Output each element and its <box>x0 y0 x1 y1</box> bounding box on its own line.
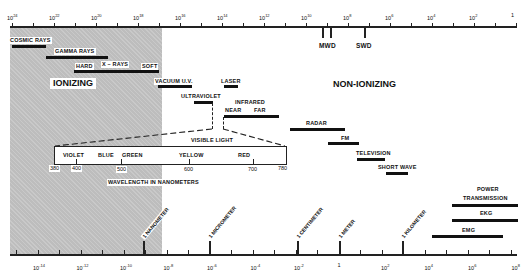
wavelength-tick <box>124 250 125 254</box>
wl-700: 700 <box>248 166 257 173</box>
wavelength-tick <box>167 250 168 254</box>
visible-light-dashed-lines <box>0 0 529 280</box>
green-label: GREEN <box>121 152 144 159</box>
wavelength-tick-label: 108 <box>512 262 520 272</box>
kilometer-marker <box>402 241 404 254</box>
wavelength-tick <box>253 250 254 254</box>
wavelength-tick <box>102 250 103 254</box>
red-label: RED <box>237 152 251 159</box>
wavelength-unit-label: WAVELENGTH IN NANOMETERS <box>107 179 200 186</box>
wavelength-tick <box>317 250 318 254</box>
blue-label: BLUE <box>97 152 115 159</box>
wavelength-tick <box>274 250 275 254</box>
wavelength-tick <box>16 250 17 254</box>
wavelength-tick <box>360 250 361 254</box>
wavelength-tick-label: 1 <box>338 262 341 269</box>
wavelength-tick-label: 10-10 <box>120 262 132 272</box>
wavelength-tick <box>38 250 39 254</box>
wl-tick-500 <box>121 159 122 164</box>
wavelength-tick <box>145 250 146 254</box>
wavelength-tick <box>382 250 383 254</box>
wavelength-tick-label: 10-8 <box>164 262 174 272</box>
wavelength-tick-label: 106 <box>468 262 476 272</box>
wavelength-tick-label: 10-4 <box>251 262 261 272</box>
wavelength-tick <box>231 250 232 254</box>
violet-label: VIOLET <box>62 152 85 159</box>
visible-light-label: VISIBLE LIGHT <box>190 137 234 144</box>
wl-tick-400 <box>76 159 77 164</box>
wavelength-tick <box>59 250 60 254</box>
wl-600: 600 <box>184 166 193 173</box>
wavelength-tick <box>511 250 512 254</box>
wavelength-tick-label: 104 <box>425 262 433 272</box>
meter-marker <box>339 241 341 254</box>
micrometer-marker <box>209 241 211 254</box>
wl-400: 400 <box>71 165 82 172</box>
wavelength-tick <box>425 250 426 254</box>
nanometer-marker <box>143 241 145 254</box>
centimeter-marker <box>297 241 299 254</box>
wl-tick-700 <box>253 159 254 164</box>
wavelength-tick <box>489 250 490 254</box>
wavelength-tick <box>188 250 189 254</box>
wl-780: 780 <box>278 165 287 172</box>
wavelength-tick-label: 10-14 <box>33 262 45 272</box>
wl-380: 380 <box>49 165 60 172</box>
wl-500: 500 <box>116 166 127 173</box>
wavelength-axis-line <box>10 254 517 256</box>
yellow-label: YELLOW <box>178 152 205 159</box>
wavelength-tick <box>81 250 82 254</box>
wavelength-tick <box>446 250 447 254</box>
wl-tick-600 <box>189 159 190 164</box>
wavelength-tick-label: 10-12 <box>77 262 89 272</box>
wavelength-tick-label: 10-6 <box>207 262 217 272</box>
wavelength-tick <box>468 250 469 254</box>
wavelength-tick-label: 102 <box>381 262 389 272</box>
wavelength-tick-label: 10-2 <box>294 262 304 272</box>
